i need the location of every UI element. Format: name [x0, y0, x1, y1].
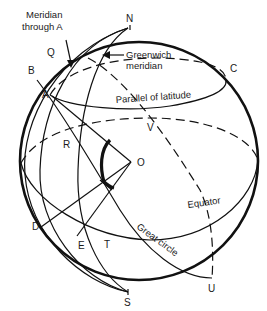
- meridian-a-label-line1: Meridian: [26, 9, 62, 20]
- label-n: N: [126, 13, 133, 24]
- meridian-through-a: [40, 28, 128, 292]
- greenwich-label-line2: meridian: [126, 60, 162, 71]
- radius-od: [41, 162, 131, 227]
- greenwich-label-line1: Greenwich: [126, 49, 171, 60]
- label-q: Q: [47, 47, 55, 58]
- parallel-label: Parallel of latitude: [115, 89, 191, 105]
- label-r: R: [63, 139, 70, 150]
- label-u: U: [208, 283, 215, 294]
- meridian-a-label-line2: through A: [22, 21, 63, 32]
- meridian-a-arrow-shaft: [66, 40, 71, 63]
- sphere-diagram: N S Q B A C V R O D E T U Meridian throu…: [0, 0, 267, 311]
- label-a: A: [42, 89, 49, 100]
- label-v: V: [147, 122, 154, 133]
- label-t: T: [104, 239, 110, 250]
- label-b: B: [28, 65, 35, 76]
- label-s: S: [124, 297, 131, 308]
- label-d: D: [32, 221, 39, 232]
- label-o: O: [137, 157, 145, 168]
- latitude-angle-arc: [102, 140, 110, 182]
- label-c: C: [230, 63, 237, 74]
- great-circle: [37, 80, 212, 278]
- equator-label: Equator: [187, 194, 221, 210]
- label-e: E: [78, 240, 85, 251]
- radius-oe: [77, 162, 131, 236]
- radius-oa: [52, 96, 131, 162]
